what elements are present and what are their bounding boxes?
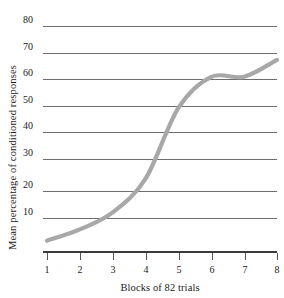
x-tick-label-3: 3 [111,264,116,275]
y-tick-label-40: 40 [23,120,33,131]
y-tick-label-30: 30 [23,147,33,158]
learning-curve-chart: Mean percentage of conditioned responses… [0,0,284,298]
x-tick-label-7: 7 [243,264,248,275]
y-tick-label-70: 70 [23,41,33,52]
x-tick-label-1: 1 [45,264,50,275]
x-tick-label-6: 6 [210,264,215,275]
x-tick-label-2: 2 [78,264,83,275]
x-tick-label-5: 5 [177,264,182,275]
y-tick-label-20: 20 [23,179,33,190]
y-tick-label-50: 50 [23,94,33,105]
x-tick-label-4: 4 [144,264,149,275]
y-axis-title: Mean percentage of conditioned responses [7,65,18,250]
x-axis-title: Blocks of 82 trials [120,282,199,293]
y-tick-label-80: 80 [23,14,33,25]
y-tick-label-10: 10 [23,206,33,217]
chart-background [0,0,284,298]
y-tick-label-60: 60 [23,67,33,78]
x-tick-label-8: 8 [275,264,280,275]
